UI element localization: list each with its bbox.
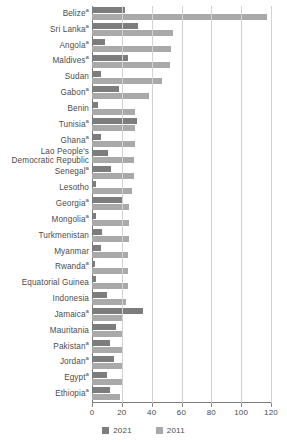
x-tick-label: 80 xyxy=(196,408,226,417)
gridline xyxy=(182,6,183,403)
bar-2011 xyxy=(92,125,135,131)
legend-label: 2021 xyxy=(113,426,132,435)
bar-2021 xyxy=(92,118,137,124)
bar-2011 xyxy=(92,394,120,400)
x-tick-label: 120 xyxy=(256,408,286,417)
bar-2011 xyxy=(92,315,123,321)
category-label: Tunisiaa xyxy=(59,120,89,129)
legend-label: 2011 xyxy=(167,426,185,435)
bar-2011 xyxy=(92,220,129,226)
gridline xyxy=(122,6,123,403)
x-tick-label: 0 xyxy=(77,408,107,417)
bar-2021 xyxy=(92,324,116,330)
category-label: Mongoliaa xyxy=(52,215,89,224)
x-tick-label: 100 xyxy=(226,408,256,417)
legend-swatch-icon xyxy=(156,427,163,434)
bar-2021 xyxy=(92,197,122,203)
bar-2011 xyxy=(92,236,129,242)
bar-2021 xyxy=(92,308,143,314)
category-label: Gabona xyxy=(60,88,89,97)
gridline xyxy=(241,6,242,403)
bar-2011 xyxy=(92,62,170,68)
bar-2021 xyxy=(92,372,107,378)
bar-2021 xyxy=(92,166,111,172)
gridline xyxy=(211,6,212,403)
bar-2011 xyxy=(92,379,123,385)
category-label: Egypta xyxy=(64,373,89,382)
bar-2021 xyxy=(92,229,102,235)
category-label: Belizea xyxy=(63,9,89,18)
bar-2011 xyxy=(92,173,134,179)
x-tick xyxy=(182,403,183,407)
category-label: Equatorial Guinea xyxy=(22,278,89,287)
x-tick xyxy=(241,403,242,407)
category-label: Myanmar xyxy=(54,247,89,256)
bar-2021 xyxy=(92,276,96,282)
bar-2021 xyxy=(92,7,125,13)
bar-2021 xyxy=(92,356,114,362)
x-tick xyxy=(92,403,93,407)
bar-2011 xyxy=(92,93,149,99)
bar-2021 xyxy=(92,39,105,45)
category-label: Mauritania xyxy=(50,326,89,335)
bar-2011 xyxy=(92,46,171,52)
category-label: Georgiaa xyxy=(56,199,89,208)
bar-2021 xyxy=(92,245,101,251)
bar-2021 xyxy=(92,387,110,393)
category-label: Senegala xyxy=(55,167,89,176)
bar-2021 xyxy=(92,340,110,346)
category-label: Jamaicaa xyxy=(54,310,89,319)
bar-2011 xyxy=(92,109,135,115)
category-label: Lao People'sDemocratic Republic xyxy=(12,147,89,165)
x-tick-label: 20 xyxy=(107,408,137,417)
bar-2011 xyxy=(92,157,134,163)
category-label: Turkmenistan xyxy=(39,231,90,240)
category-label: Ghanaa xyxy=(60,136,89,145)
x-tick-label: 40 xyxy=(137,408,167,417)
category-label: Benin xyxy=(68,104,89,113)
category-label: Jordana xyxy=(60,357,89,366)
bar-2021 xyxy=(92,261,95,267)
x-tick-label: 60 xyxy=(167,408,197,417)
chart-legend: 20212011 xyxy=(0,426,287,435)
category-label: Angolaa xyxy=(59,41,89,50)
bar-2011 xyxy=(92,347,123,353)
category-label: Ethiopiaa xyxy=(55,389,89,398)
gridline xyxy=(271,6,272,403)
bar-2021 xyxy=(92,23,138,29)
bar-2011 xyxy=(92,204,129,210)
x-tick xyxy=(152,403,153,407)
category-label: Maldivesa xyxy=(52,56,89,65)
bar-2021 xyxy=(92,181,96,187)
bar-chart: 020406080100120 BelizeaSri LankaaAngolaa… xyxy=(0,0,287,442)
legend-item[interactable]: 2021 xyxy=(102,426,132,435)
gridline xyxy=(152,6,153,403)
x-tick xyxy=(122,403,123,407)
bar-2011 xyxy=(92,188,132,194)
bar-2011 xyxy=(92,331,123,337)
category-label: Sri Lankaa xyxy=(50,25,89,34)
bar-2021 xyxy=(92,150,108,156)
legend-swatch-icon xyxy=(102,427,109,434)
category-label: Sudan xyxy=(65,72,89,81)
category-label: Indonesia xyxy=(53,294,89,303)
bar-2021 xyxy=(92,102,98,108)
category-label: Lesotho xyxy=(59,183,89,192)
bar-2021 xyxy=(92,213,96,219)
x-tick xyxy=(211,403,212,407)
legend-item[interactable]: 2011 xyxy=(156,426,185,435)
bar-2011 xyxy=(92,30,173,36)
bar-2021 xyxy=(92,71,101,77)
bar-2021 xyxy=(92,86,119,92)
bar-2021 xyxy=(92,292,107,298)
bar-2011 xyxy=(92,363,123,369)
bar-2011 xyxy=(92,141,135,147)
category-label: Rwandaa xyxy=(55,262,89,271)
category-label: Pakistana xyxy=(53,342,89,351)
x-tick xyxy=(271,403,272,407)
bar-2021 xyxy=(92,134,101,140)
